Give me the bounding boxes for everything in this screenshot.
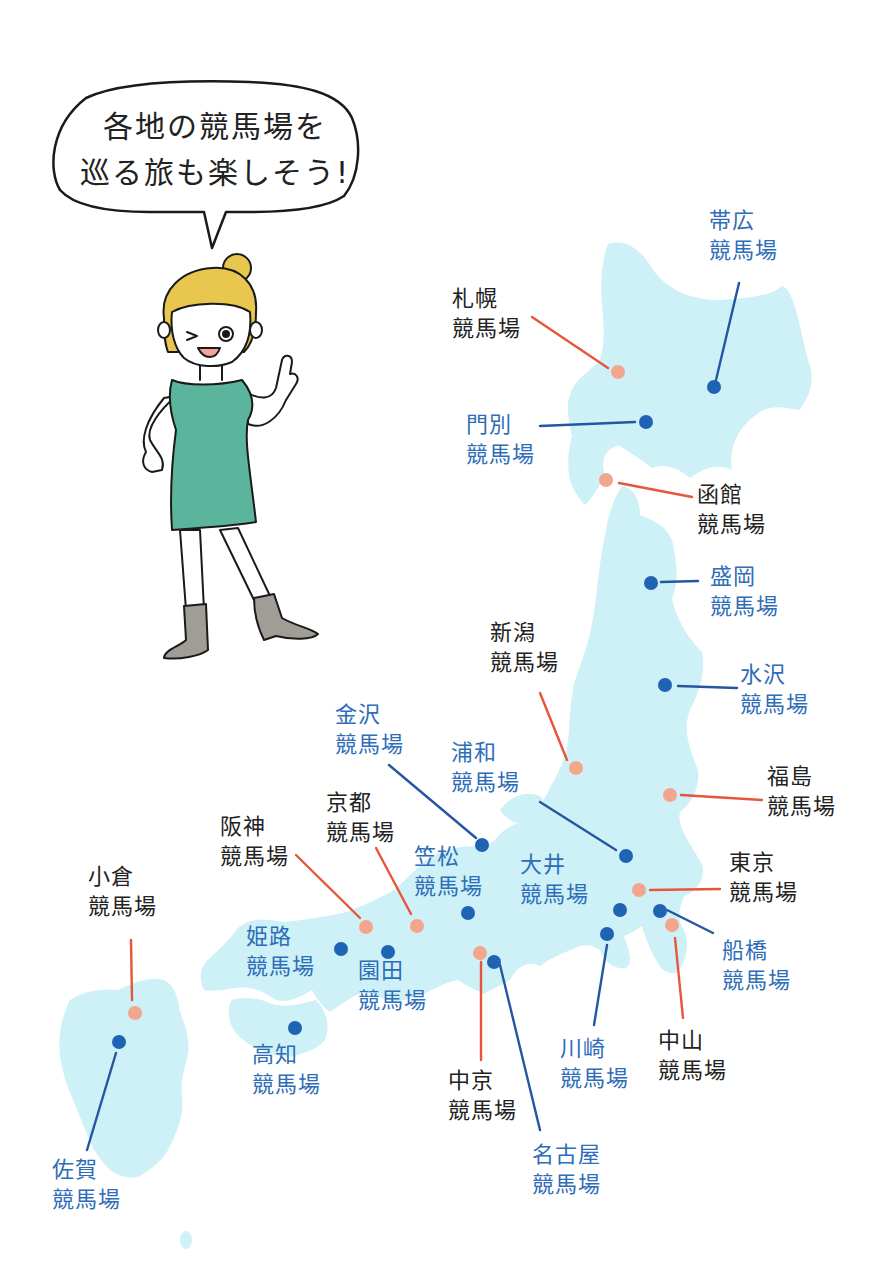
label-kasamatsu[interactable]: 笠松 競馬場 <box>414 842 483 902</box>
speech-bubble-text: 各地の競馬場を 巡る旅も楽しそう! <box>70 104 360 196</box>
racecourse-name: 盛岡 <box>710 562 779 592</box>
racecourse-suffix: 競馬場 <box>710 592 779 622</box>
label-obihiro[interactable]: 帯広 競馬場 <box>709 206 778 266</box>
racecourse-name: 水沢 <box>740 660 809 690</box>
racecourse-name: 帯広 <box>709 206 778 236</box>
dot-himeji[interactable] <box>334 942 348 956</box>
racecourse-suffix: 競馬場 <box>532 1170 601 1200</box>
racecourse-suffix: 競馬場 <box>697 510 766 540</box>
label-sonoda[interactable]: 園田 競馬場 <box>358 956 427 1016</box>
dot-kochi[interactable] <box>288 1021 302 1035</box>
racecourse-name: 中京 <box>448 1066 517 1096</box>
label-monbetsu[interactable]: 門別 競馬場 <box>466 410 535 470</box>
label-sapporo[interactable]: 札幌 競馬場 <box>452 284 521 344</box>
dot-chukyo[interactable] <box>473 946 487 960</box>
dot-fukushima[interactable] <box>663 788 677 802</box>
dot-kawasaki[interactable] <box>600 927 614 941</box>
noto-peninsula <box>500 794 544 825</box>
line-tokyo <box>650 889 720 890</box>
line-morioka <box>661 581 698 582</box>
racecourse-suffix: 競馬場 <box>246 952 315 982</box>
racecourse-suffix: 競馬場 <box>520 880 589 910</box>
label-kochi[interactable]: 高知 競馬場 <box>252 1040 321 1100</box>
dot-morioka[interactable] <box>644 576 658 590</box>
racecourse-suffix: 競馬場 <box>252 1070 321 1100</box>
racecourse-name: 大井 <box>520 850 589 880</box>
label-chukyo[interactable]: 中京 競馬場 <box>448 1066 517 1126</box>
label-niigata[interactable]: 新潟 競馬場 <box>490 618 559 678</box>
hokkaido-landmass <box>568 242 812 505</box>
dot-mizusawa[interactable] <box>658 678 672 692</box>
label-hanshin[interactable]: 阪神 競馬場 <box>220 812 289 872</box>
label-funabashi[interactable]: 船橋 競馬場 <box>722 936 791 996</box>
racecourse-name: 金沢 <box>335 700 404 730</box>
dot-kasamatsu[interactable] <box>461 906 475 920</box>
racecourse-name: 船橋 <box>722 936 791 966</box>
racecourse-suffix: 競馬場 <box>722 966 791 996</box>
racecourse-name: 園田 <box>358 956 427 986</box>
racecourse-suffix: 競馬場 <box>326 818 395 848</box>
racecourse-name: 阪神 <box>220 812 289 842</box>
dot-saga[interactable] <box>112 1035 126 1049</box>
dot-monbetsu[interactable] <box>639 415 653 429</box>
label-hakodate[interactable]: 函館 競馬場 <box>697 480 766 540</box>
label-kanazawa[interactable]: 金沢 競馬場 <box>335 700 404 760</box>
label-kokura[interactable]: 小倉 競馬場 <box>88 862 157 922</box>
dot-hakodate[interactable] <box>599 473 613 487</box>
racecourse-name: 京都 <box>326 788 395 818</box>
speech-line-1: 各地の競馬場を <box>70 104 360 150</box>
dot-tokyo[interactable] <box>632 883 646 897</box>
label-kawasaki[interactable]: 川崎 競馬場 <box>560 1034 629 1094</box>
dot-ooi[interactable] <box>613 903 627 917</box>
racecourse-suffix: 競馬場 <box>451 768 520 798</box>
dot-kokura[interactable] <box>128 1006 142 1020</box>
dot-nakayama[interactable] <box>665 918 679 932</box>
dot-obihiro[interactable] <box>707 380 721 394</box>
label-himeji[interactable]: 姫路 競馬場 <box>246 922 315 982</box>
label-kyoto[interactable]: 京都 競馬場 <box>326 788 395 848</box>
racecourse-suffix: 競馬場 <box>767 792 836 822</box>
guide-character-illustration <box>143 254 318 659</box>
racecourse-suffix: 競馬場 <box>448 1096 517 1126</box>
racecourse-name: 新潟 <box>490 618 559 648</box>
racecourse-suffix: 競馬場 <box>452 314 521 344</box>
line-fukushima <box>681 795 762 800</box>
racecourse-name: 姫路 <box>246 922 315 952</box>
racecourse-name: 函館 <box>697 480 766 510</box>
label-nakayama[interactable]: 中山 競馬場 <box>658 1026 727 1086</box>
racecourse-name: 小倉 <box>88 862 157 892</box>
kyushu-landmass <box>59 979 188 1178</box>
dot-urawa[interactable] <box>619 849 633 863</box>
racecourse-suffix: 競馬場 <box>658 1056 727 1086</box>
label-tokyo[interactable]: 東京 競馬場 <box>729 848 798 908</box>
racecourse-suffix: 競馬場 <box>52 1185 121 1215</box>
label-morioka[interactable]: 盛岡 競馬場 <box>710 562 779 622</box>
racecourse-suffix: 競馬場 <box>88 892 157 922</box>
dot-sapporo[interactable] <box>611 365 625 379</box>
racecourse-name: 東京 <box>729 848 798 878</box>
speech-line-2: 巡る旅も楽しそう! <box>70 150 360 196</box>
racecourse-suffix: 競馬場 <box>414 872 483 902</box>
racecourse-suffix: 競馬場 <box>729 878 798 908</box>
racecourse-name: 札幌 <box>452 284 521 314</box>
dot-hanshin[interactable] <box>359 920 373 934</box>
label-nagoya[interactable]: 名古屋 競馬場 <box>532 1140 601 1200</box>
small-island <box>180 1231 192 1249</box>
racecourse-name: 高知 <box>252 1040 321 1070</box>
racecourse-name: 佐賀 <box>52 1155 121 1185</box>
racecourse-name: 門別 <box>466 410 535 440</box>
label-ooi[interactable]: 大井 競馬場 <box>520 850 589 910</box>
label-urawa[interactable]: 浦和 競馬場 <box>451 738 520 798</box>
dot-niigata[interactable] <box>569 761 583 775</box>
dot-kyoto[interactable] <box>410 919 424 933</box>
racecourse-suffix: 競馬場 <box>466 440 535 470</box>
racecourse-name: 浦和 <box>451 738 520 768</box>
label-mizusawa[interactable]: 水沢 競馬場 <box>740 660 809 720</box>
dot-funabashi[interactable] <box>653 904 667 918</box>
line-kokura <box>131 940 132 1000</box>
line-hanshin <box>296 855 360 918</box>
dot-nagoya[interactable] <box>487 955 501 969</box>
label-saga[interactable]: 佐賀 競馬場 <box>52 1155 121 1215</box>
racecourse-suffix: 競馬場 <box>560 1064 629 1094</box>
label-fukushima[interactable]: 福島 競馬場 <box>767 762 836 822</box>
